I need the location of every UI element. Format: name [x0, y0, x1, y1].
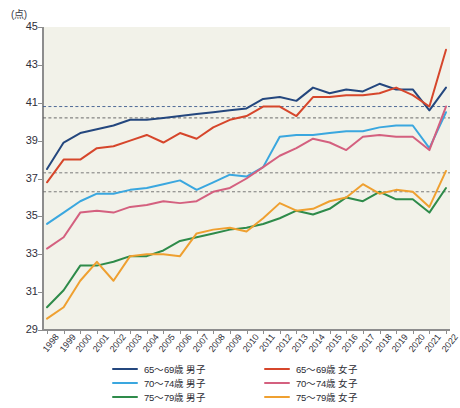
y-axis-tick — [38, 254, 43, 255]
y-axis-tick-label: 39 — [26, 134, 38, 146]
y-axis-tick — [38, 292, 43, 293]
y-axis-tick-label: 41 — [26, 96, 38, 108]
legend-item[interactable]: 75〜79歳 男子 — [112, 390, 244, 404]
y-axis-tick-label: 37 — [26, 172, 38, 184]
series-line — [47, 188, 446, 307]
y-axis-tick-label: 29 — [26, 323, 38, 335]
legend-label: 75〜79歳 男子 — [144, 390, 206, 404]
legend-color-swatch — [264, 382, 290, 385]
legend-color-swatch — [112, 382, 138, 385]
legend-item[interactable]: 65〜69歳 女子 — [264, 362, 396, 376]
y-axis-unit-label: (点) — [11, 6, 27, 21]
legend-label: 75〜79歳 女子 — [296, 390, 358, 404]
legend-label: 65〜69歳 男子 — [144, 362, 206, 376]
y-axis-tick — [38, 65, 43, 66]
y-axis-tick — [38, 216, 43, 217]
plot-area — [43, 27, 450, 330]
y-axis-tick-label: 45 — [26, 20, 38, 32]
legend-color-swatch — [112, 368, 138, 371]
y-axis-tick-label: 31 — [26, 285, 38, 297]
chart-root: (点) 293133353739414345 19981999200020012… — [0, 0, 460, 408]
y-axis-tick — [38, 27, 43, 28]
series-line — [47, 50, 446, 183]
y-axis-tick-label: 33 — [26, 247, 38, 259]
y-axis-tick — [38, 141, 43, 142]
legend-label: 65〜69歳 女子 — [296, 362, 358, 376]
legend-label: 70〜74歳 男子 — [144, 376, 206, 390]
legend-item[interactable]: 70〜74歳 男子 — [112, 376, 244, 390]
legend-color-swatch — [112, 396, 138, 399]
legend-label: 70〜74歳 女子 — [296, 376, 358, 390]
series-lines — [43, 27, 450, 330]
series-line — [47, 112, 446, 224]
y-axis-labels: 293133353739414345 — [0, 27, 38, 330]
y-axis-tick — [38, 103, 43, 104]
legend-item[interactable]: 70〜74歳 女子 — [264, 376, 396, 390]
legend-item[interactable]: 65〜69歳 男子 — [112, 362, 244, 376]
legend-color-swatch — [264, 368, 290, 371]
y-axis-tick-label: 35 — [26, 209, 38, 221]
legend-color-swatch — [264, 396, 290, 399]
y-axis-tick — [38, 179, 43, 180]
legend-item[interactable]: 75〜79歳 女子 — [264, 390, 396, 404]
y-axis-tick-label: 43 — [26, 58, 38, 70]
chart-legend: 65〜69歳 男子65〜69歳 女子70〜74歳 男子70〜74歳 女子75〜7… — [112, 362, 412, 406]
y-axis-tick — [38, 330, 43, 331]
